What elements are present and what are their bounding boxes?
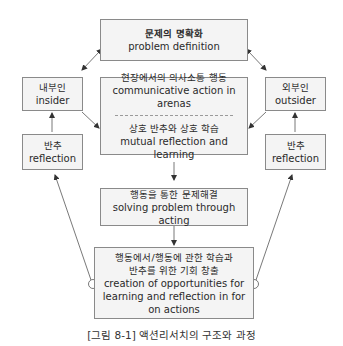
node-communicative-action: 현장에서의 의사소통 행동 communicative action in ar… [100,77,248,155]
label-ko: 반추 [44,139,62,152]
node-insider: 내부인 insider [22,77,83,111]
label-ko-mutual: 상호 반추와 상호 학습 [129,122,219,135]
label-ko: 현장에서의 의사소통 행동 [121,71,226,84]
label-en-line3: on actions [148,303,200,316]
node-reflection-left: 반추 reflection [22,134,83,170]
node-outsider: 외부인 outsider [265,77,326,111]
label-ko: 내부인 [39,81,66,94]
label-en: insider [36,94,70,107]
label-ko: 행동을 통한 문제해결 [130,188,217,201]
label-en: problem definition [128,40,220,53]
label-en-mutual: mutual reflection and learning [101,135,247,161]
edge-creation-reflection-left [55,175,91,280]
label-ko-line2: 반추를 위한 기회 창출 [129,264,219,277]
label-en: reflection [29,152,76,165]
label-en: solving problem through acting [101,201,247,227]
edge-outsider-communicative [249,112,266,128]
label-en: communicative action in arenas [101,84,247,110]
edge-creation-reflection-right [256,175,292,280]
label-en-line1: creation of opportunities for [104,277,244,290]
label-en: reflection [272,152,319,165]
node-solving-problem: 행동을 통한 문제해결 solving problem through acti… [100,188,248,226]
label-en: outsider [275,94,316,107]
edge-problem-outsider [249,52,266,70]
dashed-divider [115,115,233,116]
label-ko: 외부인 [282,81,309,94]
label-en-line2: learning and reflection in for [103,290,245,303]
node-creation-opportunities: 행동에서/행동에 관한 학습과 반추를 위한 기회 창출 creation of… [94,247,254,319]
label-ko: 반추 [287,139,305,152]
node-problem-definition: 문제의 명확화 problem definition [100,19,248,61]
edge-insider-communicative [82,112,99,128]
label-ko: 문제의 명확화 [145,27,202,40]
label-ko-line1: 행동에서/행동에 관한 학습과 [115,251,232,264]
edge-problem-insider [82,52,99,70]
figure-caption: [그림 8-1] 액션리서치의 구조와 과정 [0,327,343,342]
node-reflection-right: 반추 reflection [265,134,326,170]
